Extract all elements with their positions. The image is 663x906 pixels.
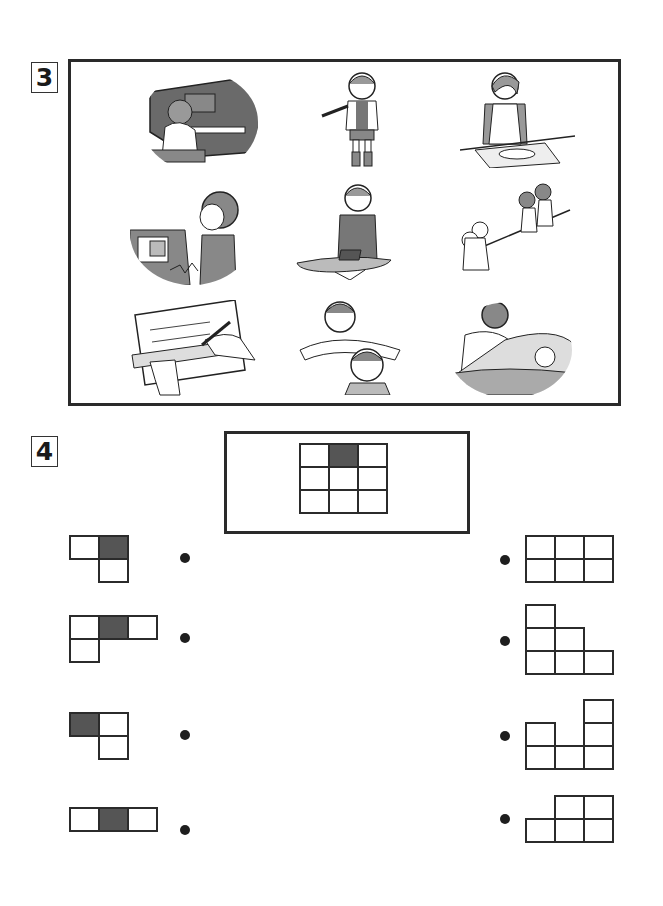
illustration-haircut[interactable] xyxy=(295,295,425,395)
shape-cell xyxy=(525,604,556,629)
shape-cell xyxy=(583,699,614,724)
shape-cell xyxy=(525,722,556,747)
piece-cell xyxy=(98,535,129,560)
reference-grid-cell xyxy=(299,443,330,468)
shape-cell xyxy=(554,627,585,652)
illustration-woman-cooking[interactable] xyxy=(455,68,585,168)
shape-cell xyxy=(554,558,585,583)
shape-cell xyxy=(525,558,556,583)
illustration-girl-waving[interactable] xyxy=(300,68,430,168)
shape-cell xyxy=(525,818,556,843)
reference-grid-cell xyxy=(299,466,330,491)
piece-cell xyxy=(98,712,129,737)
piece-cell xyxy=(98,807,129,832)
piece-cell xyxy=(69,712,100,737)
reference-grid-cell xyxy=(357,489,388,514)
piece-cell xyxy=(69,535,100,560)
illustration-bedtime[interactable] xyxy=(445,295,575,395)
reference-grid-cell xyxy=(328,489,359,514)
left-connect-dot[interactable] xyxy=(180,553,190,563)
piece-cell xyxy=(69,807,100,832)
shape-cell xyxy=(583,650,614,675)
shape-cell xyxy=(554,745,585,770)
left-connect-dot[interactable] xyxy=(180,633,190,643)
right-connect-dot[interactable] xyxy=(500,636,510,646)
shape-cell xyxy=(554,818,585,843)
left-connect-dot[interactable] xyxy=(180,730,190,740)
piece-cell xyxy=(127,615,158,640)
piece-cell xyxy=(98,735,129,760)
reference-grid-cell xyxy=(357,443,388,468)
right-connect-dot[interactable] xyxy=(500,814,510,824)
piece-cell xyxy=(98,558,129,583)
left-connect-dot[interactable] xyxy=(180,825,190,835)
reference-grid-cell xyxy=(328,443,359,468)
shape-cell xyxy=(525,535,556,560)
illustration-ironing[interactable] xyxy=(295,180,425,280)
shape-cell xyxy=(583,795,614,820)
piece-cell xyxy=(98,615,129,640)
exercise-number-4: 4 xyxy=(31,436,58,467)
right-connect-dot[interactable] xyxy=(500,555,510,565)
reference-grid-cell xyxy=(328,466,359,491)
reference-grid-cell xyxy=(357,466,388,491)
piece-cell xyxy=(69,615,100,640)
shape-cell xyxy=(583,818,614,843)
piece-cell xyxy=(69,638,100,663)
shape-cell xyxy=(583,745,614,770)
shape-cell xyxy=(583,535,614,560)
shape-cell xyxy=(554,650,585,675)
shape-cell xyxy=(583,558,614,583)
illustration-piano[interactable] xyxy=(130,72,260,172)
piece-cell xyxy=(127,807,158,832)
exercise-number-3: 3 xyxy=(31,62,58,93)
shape-cell xyxy=(554,535,585,560)
shape-cell xyxy=(525,745,556,770)
illustration-writing[interactable] xyxy=(130,300,260,400)
illustration-telephone[interactable] xyxy=(130,185,260,285)
shape-cell xyxy=(583,722,614,747)
shape-cell xyxy=(525,650,556,675)
right-connect-dot[interactable] xyxy=(500,731,510,741)
shape-cell xyxy=(525,627,556,652)
reference-grid-cell xyxy=(299,489,330,514)
shape-cell xyxy=(554,795,585,820)
illustration-tug-of-war[interactable] xyxy=(445,180,575,280)
